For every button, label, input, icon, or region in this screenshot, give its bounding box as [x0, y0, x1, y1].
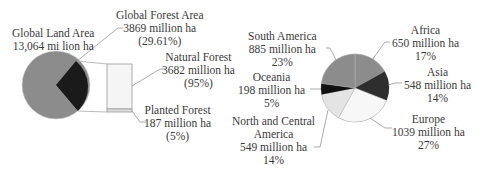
label-value: 13,064 mi lion ha — [12, 40, 94, 53]
leader-line — [372, 42, 390, 60]
label-percent: 5% — [238, 97, 305, 110]
label-title: Natural Forest — [162, 51, 235, 64]
natural-forest-segment — [107, 64, 132, 109]
leader-line — [314, 110, 328, 147]
label-percent: 14% — [232, 154, 315, 167]
label-global-land-area: Global Land Area 13,064 mi lion ha — [12, 27, 94, 53]
label-africa: Africa 650 million ha 17% — [392, 24, 459, 63]
label-percent: 17% — [392, 50, 459, 63]
label-title: South America — [248, 30, 317, 43]
label-value: 198 million ha — [238, 84, 305, 97]
label-value: 1039 million ha — [392, 126, 465, 139]
leader-line — [132, 69, 166, 86]
label-planted-forest: Planted Forest 187 million ha (5%) — [144, 104, 211, 143]
label-title: North and Central — [232, 115, 315, 128]
label-title: Oceania — [238, 71, 305, 84]
label-value: 549 million ha — [232, 141, 315, 154]
label-title: Global Forest Area — [116, 9, 204, 22]
label-percent: 23% — [248, 56, 317, 69]
label-subtitle: America — [232, 128, 315, 141]
label-global-forest-area: Global Forest Area 3869 million ha (29.6… — [116, 9, 204, 48]
connector-line — [78, 111, 107, 112]
forest-breakdown-bar — [107, 64, 132, 112]
leader-line — [326, 48, 336, 60]
label-title: Global Land Area — [12, 27, 94, 40]
label-percent: (5%) — [144, 130, 211, 143]
leader-line — [388, 83, 402, 85]
label-value: 650 million ha — [392, 37, 459, 50]
label-percent: 27% — [392, 139, 465, 152]
label-title: Asia — [404, 66, 471, 79]
label-value: 548 million ha — [404, 79, 471, 92]
label-percent: (29.61%) — [116, 35, 204, 48]
label-value: 3682 million ha — [162, 64, 235, 77]
leader-line — [370, 118, 392, 128]
label-south-america: South America 885 million ha 23% — [248, 30, 317, 69]
label-oceania: Oceania 198 million ha 5% — [238, 71, 305, 110]
label-north-central-america: North and Central America 549 million ha… — [232, 115, 315, 167]
label-value: 187 million ha — [144, 117, 211, 130]
label-natural-forest: Natural Forest 3682 million ha (95%) — [162, 51, 235, 90]
label-asia: Asia 548 million ha 14% — [404, 66, 471, 105]
label-value: 3869 million ha — [116, 22, 204, 35]
label-percent: (95%) — [162, 77, 235, 90]
forest-by-region-pie — [321, 54, 389, 122]
label-title: Africa — [392, 24, 459, 37]
label-percent: 14% — [404, 92, 471, 105]
label-value: 885 million ha — [248, 43, 317, 56]
label-europe: Europe 1039 million ha 27% — [392, 113, 465, 152]
label-title: Europe — [392, 113, 465, 126]
label-title: Planted Forest — [144, 104, 211, 117]
planted-forest-segment — [107, 109, 132, 112]
